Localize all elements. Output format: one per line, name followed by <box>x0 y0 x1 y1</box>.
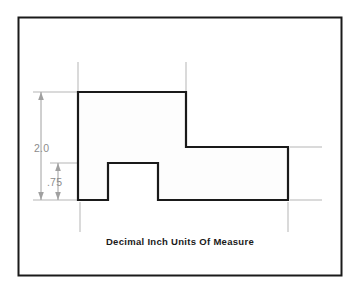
technical-drawing-figure: 2.0 .75 Decimal Inch Units Of Measure <box>0 0 360 292</box>
dimension-label-overall-height: 2.0 <box>34 142 49 154</box>
dimension-label-step-height: .75 <box>47 176 62 188</box>
figure-caption: Decimal Inch Units Of Measure <box>106 236 254 247</box>
drawing-canvas: 2.0 .75 Decimal Inch Units Of Measure <box>0 0 360 292</box>
